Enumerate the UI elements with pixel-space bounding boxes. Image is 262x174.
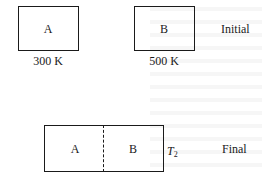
initial-state-label: Initial [221, 23, 250, 35]
final-dashed-partition [103, 125, 104, 172]
final-temperature-label: T2 [167, 145, 178, 161]
final-state-label: Final [222, 143, 247, 155]
initial-box-b-temperature: 500 K [149, 55, 179, 67]
initial-box-a-temperature: 300 K [33, 55, 63, 67]
final-box-a-label: A [71, 143, 80, 155]
final-box-b-label: B [129, 143, 137, 155]
final-temperature-symbol: T [167, 144, 174, 158]
final-combined-box [44, 125, 164, 172]
initial-box-b-label: B [160, 23, 168, 35]
initial-box-a-label: A [44, 23, 53, 35]
final-temperature-subscript: 2 [174, 150, 178, 159]
